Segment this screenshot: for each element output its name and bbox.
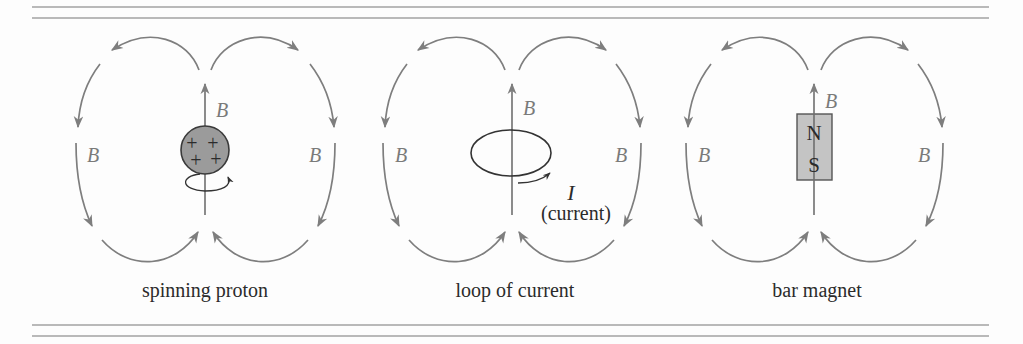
bottom-double-rule bbox=[32, 325, 989, 336]
top-double-rule bbox=[32, 7, 989, 18]
charge-plus: + bbox=[190, 149, 201, 171]
caption-loop-of-current: loop of current bbox=[456, 279, 575, 302]
south-pole-label: S bbox=[808, 153, 820, 177]
caption-spinning-proton: spinning proton bbox=[142, 279, 268, 302]
right-b-label: B bbox=[615, 144, 627, 166]
axis-b-label: B bbox=[523, 97, 535, 119]
charge-plus: + bbox=[210, 148, 221, 170]
axis-b-label: B bbox=[825, 90, 837, 112]
axis-b-label: B bbox=[216, 99, 228, 121]
figure-spinning-proton: + + + + B B B spinning proton bbox=[76, 37, 335, 302]
spin-arrow bbox=[186, 174, 229, 191]
left-b-label: B bbox=[698, 144, 710, 166]
figure-loop-of-current: B B B I (current) loop of current bbox=[383, 37, 641, 302]
right-b-label: B bbox=[309, 144, 321, 166]
figure-bar-magnet: N S B B B bar magnet bbox=[686, 37, 943, 302]
right-b-label: B bbox=[918, 144, 930, 166]
left-b-label: B bbox=[395, 144, 407, 166]
north-pole-label: N bbox=[806, 121, 821, 145]
caption-bar-magnet: bar magnet bbox=[772, 279, 862, 302]
current-label: (current) bbox=[541, 202, 611, 225]
magnetic-dipole-diagram: + + + + B B B spinning proton B B B I (c… bbox=[0, 0, 1023, 344]
left-b-label: B bbox=[87, 144, 99, 166]
current-loop bbox=[471, 130, 551, 176]
